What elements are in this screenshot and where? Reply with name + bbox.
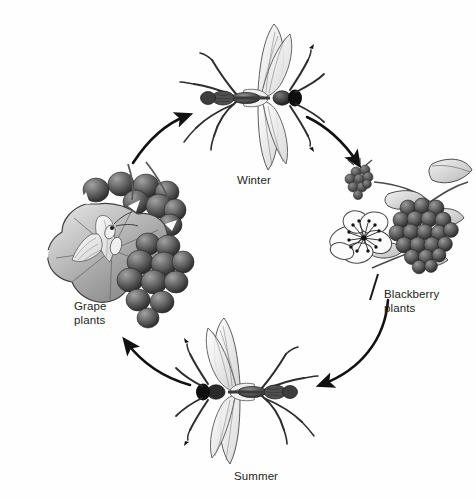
summer-insect-claws xyxy=(184,338,189,446)
label-grape-plants: Grape plants xyxy=(74,300,106,327)
winter-insect-claws xyxy=(309,44,314,152)
winter-insect-illustration xyxy=(178,18,328,178)
arrow-blackberry-to-summer xyxy=(323,300,388,384)
grape-plants-illustration xyxy=(28,158,198,328)
blackberry-plants-illustration xyxy=(312,150,476,300)
label-winter: Winter xyxy=(237,174,271,188)
life-cycle-diagram: Winter xyxy=(0,0,476,499)
summer-insect-illustration xyxy=(176,312,326,472)
blackberry-label-leader xyxy=(370,274,378,300)
label-blackberry-plants: Blackberry plants xyxy=(384,288,439,315)
label-summer: Summer xyxy=(234,470,278,484)
blackberry-unripe-berry xyxy=(345,158,373,200)
